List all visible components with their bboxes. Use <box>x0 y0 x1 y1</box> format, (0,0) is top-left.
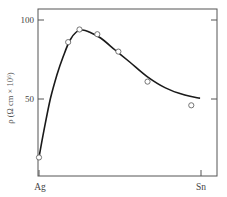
data-point <box>95 32 100 37</box>
data-point <box>116 49 121 54</box>
data-point <box>77 27 82 32</box>
data-point <box>145 79 150 84</box>
y-axis-label: ρ (Ω cm × 10⁶) <box>5 72 15 124</box>
x-endpoint-label-sn: Sn <box>196 182 206 192</box>
data-points <box>36 27 193 160</box>
x-endpoint-label-ag: Ag <box>34 182 46 192</box>
x-ticks <box>39 170 201 176</box>
y-tick-label-100: 100 <box>21 15 35 25</box>
data-point <box>36 155 41 160</box>
chart: 100 50 ρ (Ω cm × 10⁶) Ag Sn <box>0 0 227 197</box>
plot-frame <box>38 9 217 176</box>
data-point <box>66 40 71 45</box>
data-point <box>189 103 194 108</box>
y-tick-labels: 100 50 <box>21 15 35 104</box>
y-tick-label-50: 50 <box>25 94 35 104</box>
